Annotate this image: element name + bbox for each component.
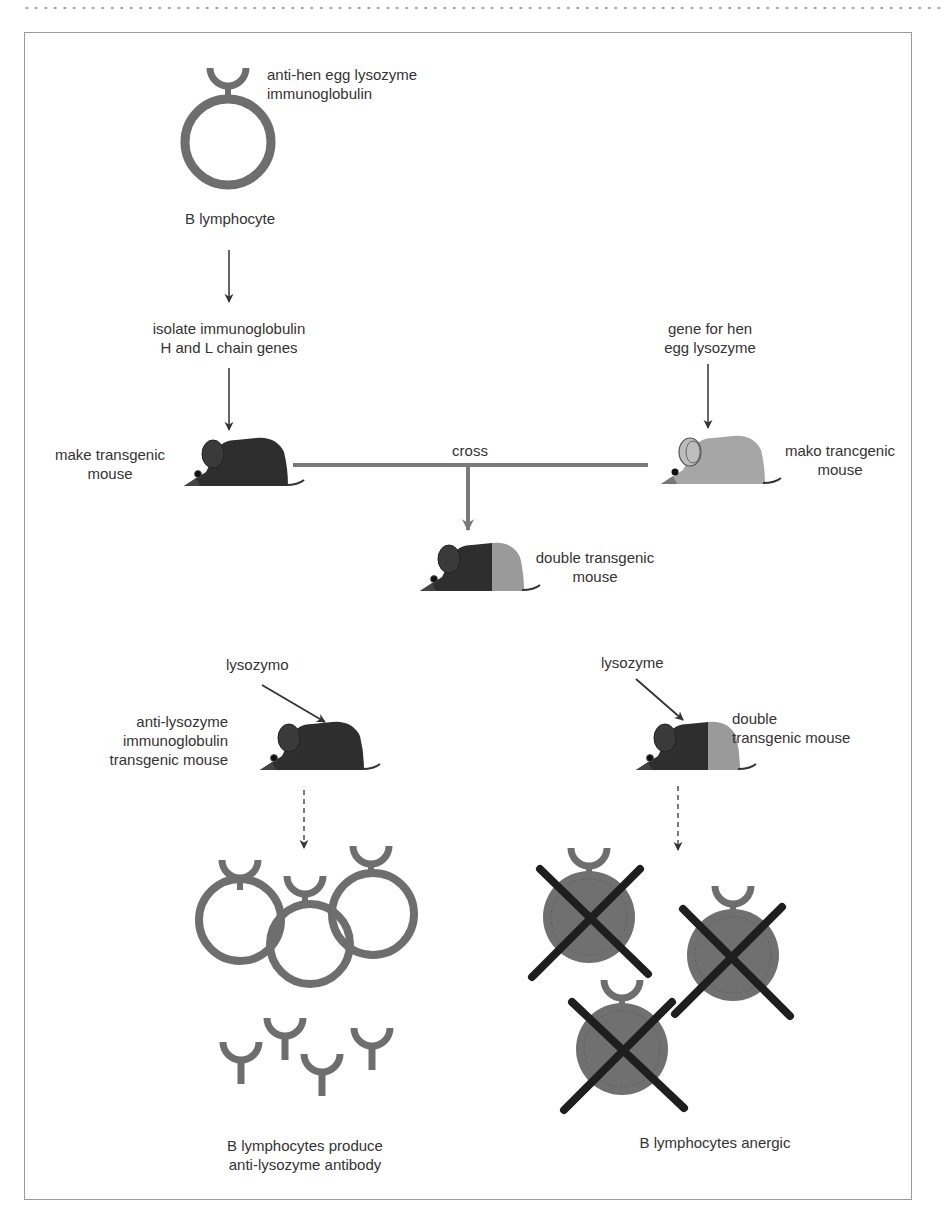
left-exp-mouse-line1: anti-lysozyme (100, 712, 228, 731)
left-result-line2: anti-lysozyme antibody (190, 1155, 420, 1174)
lysozyme-injection-arrow-icon (262, 685, 325, 722)
anti-lysozyme-mouse-icon (260, 722, 380, 770)
left-result-line1: B lymphocytes produce (190, 1136, 420, 1155)
right-exp-mouse-line2: transgenic mouse (732, 728, 850, 747)
make-transgenic-right-label: mako trancgenic mouse (770, 441, 910, 479)
make-transgenic-left-label: make transgenic mouse (40, 445, 180, 483)
lysozyme-injection-arrow-icon (636, 679, 683, 720)
anergic-b-lymphocytes-icon (532, 848, 790, 1110)
double-transgenic-experiment-label: double transgenic mouse (732, 709, 850, 747)
antibody-molecules-icon (223, 1018, 390, 1096)
left-mouse-line1: make transgenic (40, 445, 180, 464)
isolate-line1: isolate immunoglobulin (124, 319, 334, 338)
right-mouse-line1: mako trancgenic (770, 441, 910, 460)
anti-lysozyme-mouse-label: anti-lysozyme immunoglobulin transgenic … (100, 712, 228, 769)
receptor-label: anti-hen egg lysozyme immunoglobulin (267, 65, 417, 103)
lysozyme-stimulus-right-label: lysozyme (601, 653, 664, 672)
b-lymphocyte-label: B lymphocyte (150, 209, 310, 228)
gene-line1: gene for hen (630, 319, 790, 338)
double-transgenic-label: double transgenic mouse (515, 548, 675, 586)
left-exp-mouse-line2: immunoglobulin (100, 731, 228, 750)
isolate-line2: H and L chain genes (124, 338, 334, 357)
double-mouse-line2: mouse (515, 567, 675, 586)
transgenic-mouse-right-icon (661, 436, 781, 484)
receptor-label-line2: immunoglobulin (267, 84, 417, 103)
diagram-artwork (0, 0, 945, 1228)
double-mouse-line1: double transgenic (515, 548, 675, 567)
b-lymphocyte-cluster-icon (199, 846, 414, 984)
right-mouse-line2: mouse (770, 460, 910, 479)
b-lymphocyte-cell-icon (185, 68, 271, 185)
cross-label: cross (430, 441, 510, 460)
lysozyme-stimulus-left-label: lysozymo (226, 655, 289, 674)
right-exp-mouse-line1: double (732, 709, 850, 728)
antibody-production-result-label: B lymphocytes produce anti-lysozyme anti… (190, 1136, 420, 1174)
gene-line2: egg lysozyme (630, 338, 790, 357)
isolate-genes-label: isolate immunoglobulin H and L chain gen… (124, 319, 334, 357)
anergic-result-label: B lymphocytes anergic (610, 1133, 820, 1152)
left-exp-mouse-line3: transgenic mouse (100, 750, 228, 769)
gene-lysozyme-label: gene for hen egg lysozyme (630, 319, 790, 357)
transgenic-mouse-left-icon (184, 438, 304, 486)
receptor-label-line1: anti-hen egg lysozyme (267, 65, 417, 84)
left-mouse-line2: mouse (40, 464, 180, 483)
